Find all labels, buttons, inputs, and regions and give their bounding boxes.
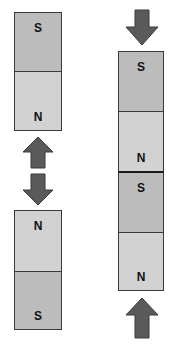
north-pole: N — [14, 71, 62, 131]
pole-label: N — [34, 110, 43, 124]
pole-label: N — [137, 151, 146, 165]
pole-label: N — [137, 270, 146, 284]
arrow-up-icon — [125, 297, 159, 339]
north-pole: N — [118, 111, 164, 172]
pole-label: S — [137, 60, 145, 74]
south-pole: S — [14, 12, 62, 72]
pole-label: S — [137, 181, 145, 195]
south-pole: S — [14, 271, 62, 330]
arrow-down-icon — [22, 173, 54, 206]
pole-label: S — [34, 309, 42, 323]
pole-label: S — [34, 21, 42, 35]
south-pole: S — [118, 171, 164, 233]
arrow-up-icon — [22, 136, 54, 169]
pole-label: N — [34, 219, 43, 233]
south-pole: S — [118, 51, 164, 112]
arrow-down-icon — [125, 9, 159, 46]
north-pole: N — [14, 210, 62, 272]
north-pole: N — [118, 232, 164, 291]
